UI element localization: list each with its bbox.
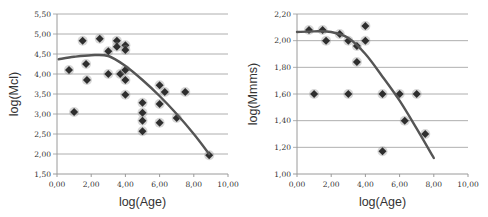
- y-tick-label: 1,80: [274, 63, 291, 72]
- x-tick-label: 10,00: [457, 180, 479, 189]
- y-tick-label: 2,20: [274, 10, 291, 19]
- x-tick-label: 6,00: [391, 180, 408, 189]
- y-tick-label: 2,00: [34, 150, 51, 159]
- x-tick-label: 0,00: [289, 180, 306, 189]
- x-tick-label: 0,00: [49, 180, 66, 189]
- x-tick-label: 8,00: [425, 180, 442, 189]
- x-axis-title: log(Age): [359, 195, 406, 209]
- y-tick-label: 2,50: [34, 130, 51, 139]
- y-tick-label: 3,00: [34, 110, 51, 119]
- y-tick-label: 2,00: [274, 36, 291, 45]
- y-tick-label: 1,50: [34, 170, 51, 179]
- x-tick-label: 4,00: [357, 180, 374, 189]
- y-tick-label: 1,00: [274, 170, 291, 179]
- x-tick-label: 4,00: [117, 180, 134, 189]
- charts-canvas: 1,502,002,503,003,504,004,505,005,500,00…: [0, 0, 488, 217]
- y-tick-label: 1,20: [274, 143, 291, 152]
- y-axis-title: log(Mcl): [7, 72, 21, 116]
- y-tick-label: 5,00: [34, 30, 51, 39]
- trend-line: [59, 55, 209, 154]
- y-tick-label: 4,50: [34, 50, 51, 59]
- y-tick-label: 5,50: [34, 10, 51, 19]
- x-tick-label: 2,00: [323, 180, 340, 189]
- chart-mmms-vs-age: 1,001,201,401,601,802,002,200,002,004,00…: [246, 10, 479, 210]
- x-axis-title: log(Age): [119, 195, 166, 209]
- x-tick-label: 6,00: [151, 180, 168, 189]
- y-tick-label: 1,40: [274, 116, 291, 125]
- x-tick-label: 8,00: [185, 180, 202, 189]
- chart-mcl-vs-age: 1,502,002,503,003,504,004,505,005,500,00…: [7, 10, 239, 210]
- y-tick-label: 3,50: [34, 90, 51, 99]
- y-axis-title: log(Mmms): [246, 63, 260, 126]
- y-tick-label: 4,00: [34, 70, 51, 79]
- x-tick-label: 10,00: [217, 180, 239, 189]
- y-tick-label: 1,60: [274, 90, 291, 99]
- x-tick-label: 2,00: [83, 180, 100, 189]
